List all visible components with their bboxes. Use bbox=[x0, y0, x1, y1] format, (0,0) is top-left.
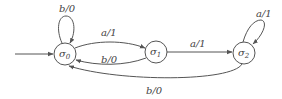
state-s1: σ1 bbox=[145, 41, 167, 63]
edge-label-s0-s0: b/0 bbox=[59, 3, 76, 14]
edge-label-s2-s0: b/0 bbox=[146, 85, 163, 96]
edge-label-s1-s0: b/0 bbox=[101, 54, 118, 65]
edge-label-s0-s1: a/1 bbox=[101, 27, 117, 38]
edge-s0-s0 bbox=[59, 16, 74, 43]
edge-s0-s1 bbox=[75, 42, 145, 48]
edge-label-s1-s2: a/1 bbox=[190, 38, 206, 49]
edge-s2-s0 bbox=[69, 64, 242, 78]
state-s0: σ0 bbox=[54, 43, 76, 65]
edge-label-s2-s2: a/1 bbox=[256, 8, 272, 19]
state-s2: σ2 bbox=[233, 42, 255, 64]
edge-s2-s2 bbox=[243, 20, 264, 44]
state-diagram: b/0 a/1 b/0 a/1 a/1 b/0 σ0 σ1 σ2 bbox=[0, 0, 282, 99]
